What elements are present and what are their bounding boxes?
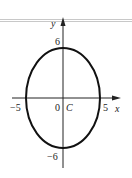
x-axis-label: x (115, 104, 119, 114)
y-axis-label: y (51, 19, 55, 29)
ellipse-graph (0, 0, 132, 178)
tick-label-x-pos: 5 (103, 103, 108, 113)
center-label: C (66, 103, 73, 113)
tick-label-y-neg: −6 (47, 152, 58, 162)
y-axis-arrow-icon (61, 17, 66, 26)
tick-label-y-pos: 6 (55, 37, 60, 47)
tick-label-x-neg: −5 (10, 103, 21, 113)
x-axis-arrow-icon (112, 96, 121, 101)
origin-label: 0 (55, 103, 60, 113)
